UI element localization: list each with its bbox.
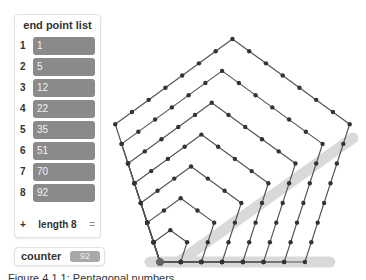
counter-label: counter [21,250,61,262]
origin-dot [157,259,164,266]
point-dot [320,142,324,146]
counter-watcher: counter 92 [14,247,105,266]
point-dot [193,113,197,117]
point-dot [233,157,237,161]
point-dot [297,85,301,89]
point-dot [328,181,332,185]
point-dot [166,157,170,161]
point-dot [260,201,264,205]
list-footer: + length 8 = [15,219,100,233]
point-dot [331,110,335,114]
list-item: 535 [15,121,100,139]
point-dot [314,98,318,102]
point-dot [180,73,184,77]
point-dot [274,220,278,224]
list-item-value[interactable]: 5 [33,58,95,76]
point-dot [293,161,297,165]
diagonal-highlight-bar [179,138,353,262]
point-dot [226,113,230,117]
list-item-index: 4 [20,103,30,114]
point-dot [304,130,308,134]
point-dot [287,117,291,121]
list-item: 25 [15,58,100,76]
point-dot [203,81,207,85]
point-dot [195,208,199,212]
list-item-index: 3 [20,82,30,93]
list-item-index: 1 [20,40,30,51]
point-dot [199,132,203,136]
point-dot [119,142,123,146]
resize-handle-icon[interactable]: = [89,219,95,230]
list-item: 651 [15,142,100,160]
point-dot [322,201,326,205]
point-dot [226,240,230,244]
list-item-value[interactable]: 70 [33,163,95,181]
point-dot [185,240,189,244]
point-dot [295,220,299,224]
point-dot [216,145,220,149]
point-dot [264,61,268,65]
list-item: 11 [15,37,100,55]
point-dot [130,110,134,114]
list-title: end point list [15,19,100,31]
point-dot [270,105,274,109]
list-item: 312 [15,79,100,97]
list-item: 422 [15,100,100,118]
point-dot [151,240,155,244]
point-dot [261,260,265,264]
list-item-value[interactable]: 22 [33,100,95,118]
point-dot [214,49,218,53]
point-dot [149,169,153,173]
point-dot [179,196,183,200]
list-item: 892 [15,184,100,202]
list-item-value[interactable]: 35 [33,121,95,139]
point-dot [347,122,351,126]
point-dot [197,61,201,65]
point-dot [206,240,210,244]
point-dot [233,220,237,224]
point-dot [268,240,272,244]
list-item-value[interactable]: 92 [33,184,95,202]
point-dot [212,220,216,224]
figure-caption: Figure 4.1.1: Pentagonal numbers [8,272,174,280]
list-item-value[interactable]: 51 [33,142,95,160]
point-dot [253,93,257,97]
point-dot [253,220,257,224]
point-dot [170,105,174,109]
list-item-index: 6 [20,145,30,156]
point-dot [220,69,224,73]
point-dot [243,125,247,129]
list-item-value[interactable]: 12 [33,79,95,97]
list-item-index: 2 [20,61,30,72]
point-dot [308,181,312,185]
point-dot [155,189,159,193]
end-point-list-panel: end point list 1125312422535651770892 + … [14,14,101,238]
list-length-label: length 8 [15,219,100,230]
point-dot [176,125,180,129]
point-dot [145,220,149,224]
point-dot [230,37,234,41]
point-dot [260,137,264,141]
point-dot [139,201,143,205]
point-dot [189,164,193,168]
point-dot [206,176,210,180]
point-dot [315,220,319,224]
list-item-index: 5 [20,124,30,135]
point-dot [220,260,224,264]
point-dot [239,201,243,205]
list-item-index: 7 [20,166,30,177]
point-dot [266,181,270,185]
point-dot [182,145,186,149]
point-dot [287,181,291,185]
point-dot [249,169,253,173]
point-dot [280,73,284,77]
point-dot [126,161,130,165]
point-dot [159,137,163,141]
counter-value: 92 [70,251,100,262]
list-item-index: 8 [20,187,30,198]
point-dot [132,181,136,185]
list-item-value[interactable]: 1 [33,37,95,55]
point-dot [143,149,147,153]
point-dot [303,260,307,264]
point-dot [199,260,203,264]
